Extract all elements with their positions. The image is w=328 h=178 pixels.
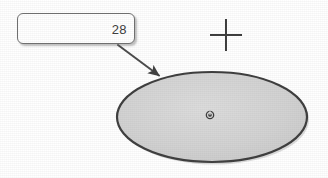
plus-icon	[210, 19, 242, 51]
leader-arrow	[118, 45, 159, 76]
callout-value: 28	[112, 22, 127, 35]
callout-box[interactable]: 28	[17, 13, 135, 44]
power-icon	[206, 111, 215, 120]
diagram-canvas: 28	[0, 0, 328, 178]
